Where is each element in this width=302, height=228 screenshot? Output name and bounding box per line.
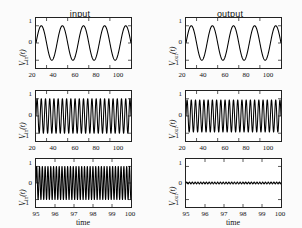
xtick-r2r-80: 80 (236, 144, 256, 152)
xtick-r3r-99: 99 (252, 210, 272, 218)
xtick-r2l-80: 80 (86, 144, 106, 152)
xtick-r1r-40: 40 (193, 71, 213, 79)
ytick-r3l-m1: -1 (15, 199, 29, 207)
xtick-r2r-40: 40 (193, 144, 213, 152)
plot-panel-output-row3[interactable] (185, 158, 282, 208)
xtick-r2l-60: 60 (65, 144, 85, 152)
ytick-r3r-0: 0 (168, 179, 182, 187)
ylabel-arg: (t) (168, 47, 177, 55)
plot-panel-input-row1[interactable] (35, 17, 132, 69)
ytick-r1l-1: 1 (18, 17, 32, 25)
plot-panel-input-row2[interactable] (35, 90, 132, 142)
ytick-r2r-1: 1 (168, 90, 182, 98)
xtick-r3r-96: 96 (195, 210, 215, 218)
plot-panel-output-row1[interactable] (185, 17, 282, 69)
ytick-r3l-1: 1 (18, 159, 32, 167)
xtick-r2r-20: 20 (172, 144, 192, 152)
ytick-r2r-m1: -1 (165, 132, 179, 140)
plot-panel-output-row2[interactable] (185, 90, 282, 142)
xtick-r1l-60: 60 (65, 71, 85, 79)
xtick-r2l-40: 40 (43, 144, 63, 152)
ylabel-arg: (t) (18, 122, 27, 130)
ytick-r2l-0: 0 (18, 111, 32, 119)
ytick-r1l-0: 0 (18, 38, 32, 46)
xtick-r3l-98: 98 (83, 210, 103, 218)
xtick-r3l-100: 100 (120, 210, 140, 218)
ytick-r2l-1: 1 (18, 90, 32, 98)
ytick-r3r-m1: -1 (165, 199, 179, 207)
ylabel-arg: (t) (18, 49, 27, 57)
xlabel-input: time (63, 218, 103, 227)
xtick-r2l-20: 20 (22, 144, 42, 152)
ytick-r1r-0: 0 (168, 38, 182, 46)
xtick-r3r-98: 98 (233, 210, 253, 218)
xtick-r1r-20: 20 (172, 71, 192, 79)
xtick-r3r-97: 97 (214, 210, 234, 218)
ytick-r2l-m1: -1 (15, 132, 29, 140)
xtick-r2r-100: 100 (258, 144, 278, 152)
xtick-r1r-100: 100 (258, 71, 278, 79)
xtick-r3l-97: 97 (64, 210, 84, 218)
xtick-r1r-60: 60 (215, 71, 235, 79)
xtick-r1l-100: 100 (108, 71, 128, 79)
ytick-r3r-1: 1 (168, 159, 182, 167)
ytick-r1r-m1: -1 (165, 59, 179, 67)
xtick-r2r-60: 60 (215, 144, 235, 152)
ytick-r1l-m1: -1 (15, 59, 29, 67)
ylabel-arg: (t) (168, 120, 177, 128)
xtick-r3l-99: 99 (102, 210, 122, 218)
xtick-r3r-95: 95 (176, 210, 196, 218)
plot-panel-input-row3[interactable] (35, 158, 132, 208)
ytick-r1r-1: 1 (168, 17, 182, 25)
xtick-r3l-96: 96 (45, 210, 65, 218)
xtick-r1l-80: 80 (86, 71, 106, 79)
ylabel-arg: (t) (168, 187, 177, 195)
xtick-r2l-100: 100 (108, 144, 128, 152)
xtick-r1r-80: 80 (236, 71, 256, 79)
xtick-r3l-95: 95 (26, 210, 46, 218)
ytick-r2r-0: 0 (168, 111, 182, 119)
xtick-r1l-40: 40 (43, 71, 63, 79)
ylabel-arg: (t) (18, 189, 27, 197)
ytick-r3l-0: 0 (18, 179, 32, 187)
figure-canvas: input output Vin(t) 1 0 -1 20 40 60 80 1… (0, 0, 302, 228)
xtick-r3r-100: 100 (270, 210, 290, 218)
xlabel-output: time (213, 218, 253, 227)
xtick-r1l-20: 20 (22, 71, 42, 79)
